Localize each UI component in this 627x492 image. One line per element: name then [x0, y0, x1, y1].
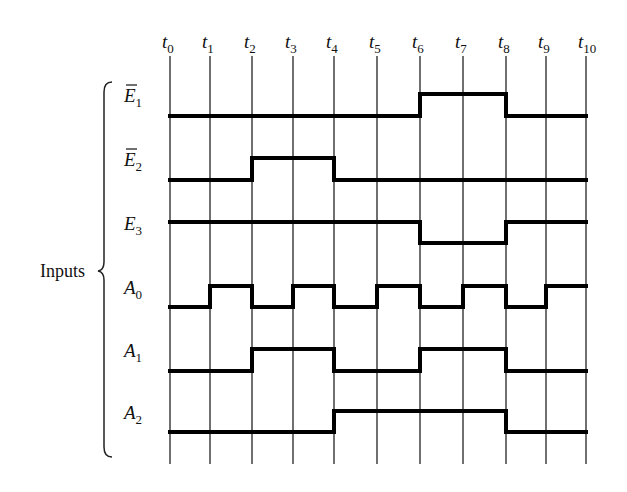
- waveforms: [170, 94, 586, 432]
- waveform-e1-bar: [170, 94, 586, 116]
- signal-label-a0: A0: [122, 277, 142, 302]
- signal-label-a2: A2: [122, 402, 142, 427]
- time-label-t6: t6: [412, 31, 424, 56]
- time-label-t8: t8: [498, 31, 510, 56]
- waveform-e3: [170, 222, 586, 243]
- time-label-t5: t5: [369, 31, 381, 56]
- time-label-t10: t10: [578, 31, 596, 56]
- waveform-a0: [170, 286, 586, 307]
- time-label-t0: t0: [162, 31, 174, 56]
- signal-labels: E1E2E3A0A1A2: [122, 85, 142, 427]
- time-axis-labels: t0t1t2t3t4t5t6t7t8t9t10: [162, 31, 596, 56]
- inputs-label: Inputs: [40, 261, 85, 281]
- signal-label-e3: E3: [123, 213, 142, 238]
- signal-label-e1-bar: E1: [123, 85, 142, 110]
- inputs-group: Inputs: [40, 82, 112, 457]
- waveform-a2: [170, 411, 586, 432]
- time-label-t1: t1: [202, 31, 214, 56]
- inputs-brace: [98, 82, 112, 457]
- waveform-a1: [170, 349, 586, 371]
- time-label-t7: t7: [455, 31, 467, 56]
- signal-label-a1: A1: [122, 340, 142, 365]
- time-label-t2: t2: [244, 31, 256, 56]
- signal-label-e2-bar: E2: [123, 149, 142, 174]
- timing-diagram: t0t1t2t3t4t5t6t7t8t9t10 E1E2E3A0A1A2 Inp…: [0, 0, 627, 492]
- waveform-e2-bar: [170, 158, 586, 180]
- time-label-t4: t4: [326, 31, 338, 56]
- time-label-t9: t9: [538, 31, 550, 56]
- time-label-t3: t3: [285, 31, 297, 56]
